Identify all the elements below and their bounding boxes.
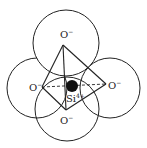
silicon-label: Si4+ [66, 92, 85, 104]
oxygen-label-bottom: O− [60, 114, 73, 126]
silicon-ion [66, 80, 78, 92]
oxygen-sphere-top [33, 10, 99, 76]
silicate-tetrahedron-diagram: O− O− O− O− Si4+ [0, 0, 147, 148]
